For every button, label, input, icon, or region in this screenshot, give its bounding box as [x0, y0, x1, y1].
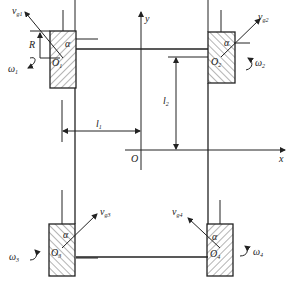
wheel-4: vg4 α O4 ω4 — [172, 206, 263, 276]
wheel-3: vg3 α O3 ω3 — [9, 206, 110, 276]
center-label: O — [210, 248, 217, 259]
omega-label: ω — [9, 251, 16, 262]
svg-text:vg1: vg1 — [12, 5, 22, 17]
radius-label: R — [28, 39, 35, 50]
rotation-arrow-icon — [30, 250, 37, 260]
svg-text:l1: l1 — [96, 118, 102, 130]
x-axis-label: x — [278, 153, 284, 164]
center-label: O — [51, 247, 58, 258]
svg-text:ω1: ω1 — [8, 63, 18, 75]
angle-label: α — [212, 231, 218, 242]
angle-label: α — [224, 37, 230, 48]
angle-label: α — [63, 229, 69, 240]
dimension-l1: l1 — [62, 100, 140, 142]
wheel-2: vg2 α O2 ω2 — [208, 11, 268, 83]
dimension-l2: l2 — [163, 57, 208, 149]
coordinate-axes: y x O — [125, 12, 285, 170]
svg-text:l2: l2 — [163, 95, 169, 107]
angle-label: α — [65, 38, 71, 49]
center-label: O — [211, 56, 218, 67]
svg-text:ω4: ω4 — [253, 246, 263, 258]
omega-label: ω — [255, 57, 262, 68]
svg-text:vg2: vg2 — [258, 11, 268, 23]
wheel-1: vg1 α O1 ω1 — [8, 5, 76, 88]
mecanum-robot-diagram: y x O l1 l2 R vg1 α O1 ω1 vg2 α O2 — [0, 0, 291, 288]
rotation-arrow-icon — [246, 58, 252, 70]
omega-label: ω — [8, 63, 15, 74]
y-axis-label: y — [144, 13, 150, 24]
svg-text:vg3: vg3 — [100, 206, 110, 218]
rotation-arrow-icon — [28, 58, 35, 68]
rotation-arrow-icon — [240, 246, 247, 256]
svg-text:vg4: vg4 — [172, 206, 182, 218]
omega-label: ω — [253, 246, 260, 257]
origin-label: O — [131, 153, 138, 164]
center-label: O — [52, 57, 59, 68]
svg-text:ω3: ω3 — [9, 251, 19, 263]
svg-text:ω2: ω2 — [255, 57, 265, 69]
